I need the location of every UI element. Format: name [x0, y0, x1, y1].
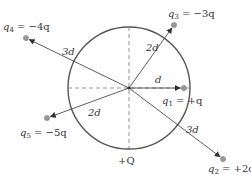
distance-label-q4: 3d — [62, 46, 75, 57]
charge-label-q5: q5 = −5q — [20, 127, 67, 140]
charge-diagram: dq1 = +q3dq2 = +2q2dq3 = −3q3dq4 = −4q2d… — [0, 0, 251, 177]
charge-label-q3: q3 = −3q — [168, 8, 215, 21]
distance-label-q5: 2d — [87, 107, 101, 118]
distance-label-q3: 2d — [145, 42, 159, 53]
vector-q3 — [129, 28, 172, 88]
center-point — [128, 87, 131, 90]
distance-label-q1: d — [155, 74, 161, 85]
charge-q5 — [44, 115, 49, 120]
circle-charge-label: +Q — [118, 155, 135, 166]
charge-q4 — [23, 35, 28, 40]
labels-group: dq1 = +q3dq2 = +2q2dq3 = −3q3dq4 = −4q2d… — [3, 8, 251, 176]
charge-q3 — [171, 22, 176, 27]
distance-label-q2: 3d — [186, 124, 199, 135]
charge-label-q2: q2 = +2q — [208, 163, 251, 176]
charge-q1 — [181, 85, 186, 90]
charges-group — [23, 22, 225, 161]
charge-q2 — [220, 156, 225, 161]
charge-label-q4: q4 = −4q — [3, 21, 50, 34]
vector-q4 — [30, 40, 129, 88]
diagram-canvas: dq1 = +q3dq2 = +2q2dq3 = −3q3dq4 = −4q2d… — [0, 0, 251, 177]
charge-label-q1: q1 = +q — [162, 95, 203, 108]
